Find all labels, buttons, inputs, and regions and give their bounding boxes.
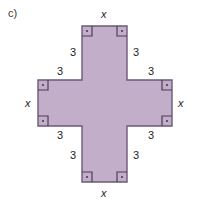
label-side-right-upper: 3 [148, 66, 154, 77]
label-side-left-upper: 3 [57, 66, 63, 77]
label-arm-right-x: x [178, 98, 184, 109]
label-arm-bottom-x: x [101, 188, 107, 199]
label-side-bottom-left: 3 [70, 150, 76, 161]
label-side-top-right: 3 [133, 47, 139, 58]
label-side-top-left: 3 [70, 47, 76, 58]
label-arm-left-x: x [25, 98, 31, 109]
geometry-figure: c) [0, 0, 208, 208]
label-arm-top-x: x [101, 9, 107, 20]
cross-polygon [38, 26, 172, 182]
label-side-left-lower: 3 [57, 130, 63, 141]
label-side-bottom-right: 3 [133, 150, 139, 161]
label-side-right-lower: 3 [148, 130, 154, 141]
cross-shape-svg [0, 0, 208, 208]
